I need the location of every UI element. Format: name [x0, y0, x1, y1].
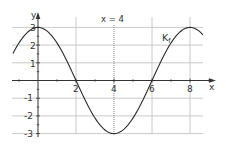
y-tick-label-1: 1 — [30, 59, 36, 69]
x-axis-label: x — [209, 82, 215, 92]
x-tick-label-4: 4 — [111, 84, 117, 94]
function-graph: y x x = 4 Kf 2 4 6 8 3 2 1 -1 -2 -3 — [0, 0, 226, 148]
y-axis-arrow-icon — [36, 12, 41, 19]
curve-label: Kf — [162, 32, 171, 45]
grid-lines — [12, 17, 203, 134]
y-tick-label-2: 2 — [30, 41, 36, 51]
vline-label: x = 4 — [101, 14, 124, 24]
axes — [12, 12, 216, 137]
y-axis-label: y — [31, 10, 37, 20]
y-tick-label-3: 3 — [30, 23, 36, 33]
y-tick-label-neg3: -3 — [24, 129, 33, 139]
x-tick-label-6: 6 — [149, 84, 155, 94]
x-tick-label-2: 2 — [73, 84, 79, 94]
x-tick-label-8: 8 — [187, 84, 193, 94]
y-tick-label-neg1: -1 — [24, 93, 33, 103]
y-tick-label-neg2: -2 — [24, 111, 33, 121]
